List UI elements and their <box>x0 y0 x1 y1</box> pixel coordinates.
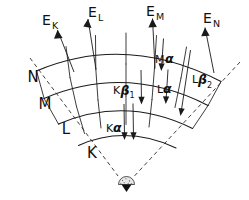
arrowhead-L-alpha <box>163 96 169 104</box>
energy-label-EM-base: E <box>146 3 155 19</box>
arrowhead-L-beta-2 <box>179 108 185 116</box>
energy-label-EN-sub: N <box>213 18 220 29</box>
energy-label-EK-sub: K <box>52 20 59 31</box>
transition-label-L-beta-2-greek: β <box>197 72 207 87</box>
nucleus-speck <box>128 183 129 184</box>
shell-label-M: M <box>39 95 52 113</box>
arrowhead-EK <box>54 30 63 39</box>
transition-label-L-beta-2: L β 2 <box>192 72 212 90</box>
arrowhead-EL <box>83 19 91 28</box>
energy-label-EL-base: E <box>88 4 97 20</box>
radial-line-7 <box>193 106 208 129</box>
energy-label-EL: E L <box>88 4 104 23</box>
transition-label-K-beta-1-sub: 1 <box>130 91 135 100</box>
transition-arrow-K-alpha <box>121 104 136 141</box>
transition-label-K-alpha: K α <box>106 120 122 135</box>
transition-label-L-beta-2-sub: 2 <box>207 81 212 90</box>
radial-line-2 <box>66 47 70 78</box>
shell-label-N: N <box>27 68 38 86</box>
energy-label-EM: E M <box>146 3 164 22</box>
energy-label-EK: E K <box>42 12 59 31</box>
transition-label-K-beta-1-greek: β <box>120 83 130 98</box>
nucleus-speck <box>129 180 130 181</box>
arrowhead-EN <box>201 28 209 37</box>
nucleus <box>119 177 135 193</box>
transition-label-L-alpha: L α <box>157 81 172 96</box>
energy-ray-EK <box>54 30 74 72</box>
nucleus-speck <box>124 182 125 183</box>
transition-shaft-K-alpha-a <box>124 104 125 137</box>
energy-labels: E K E L E M E N <box>42 3 220 31</box>
transition-shaft-K-alpha-b <box>133 104 134 138</box>
nucleus-speck <box>122 180 123 181</box>
transition-label-K-alpha-greek: α <box>113 120 122 135</box>
energy-ray-EN <box>201 28 214 74</box>
radial-line-6 <box>181 47 187 78</box>
energy-label-EL-sub: L <box>98 12 104 23</box>
nucleus-speck <box>120 183 121 184</box>
arrowhead-K-beta-1 <box>138 97 144 105</box>
radial-line-6b <box>175 78 181 108</box>
shell-label-L: L <box>62 120 71 138</box>
energy-label-EN-base: E <box>203 10 212 26</box>
radial-line-3c <box>98 100 101 128</box>
diagram-canvas: K L M N E K E L E M E N <box>0 0 249 200</box>
shell-label-K: K <box>87 144 98 162</box>
transition-shaft-L-beta-2 <box>181 50 191 113</box>
transition-label-K-beta-1: K β 1 <box>113 83 135 100</box>
transition-label-L-alpha-greek: α <box>163 81 172 96</box>
energy-label-EN: E N <box>203 10 220 29</box>
radial-line-2b <box>70 78 77 107</box>
nucleus-speck <box>125 178 126 179</box>
transition-label-M-alpha: M α <box>155 51 174 66</box>
boundary-left-dashed <box>30 58 118 176</box>
transition-labels: K α K β 1 L α M α L β 2 <box>106 51 212 135</box>
transition-label-M-alpha-greek: α <box>165 51 174 66</box>
energy-ray-EL <box>83 19 96 70</box>
energy-label-EK-base: E <box>42 12 51 28</box>
transition-label-M-alpha-prefix: M <box>155 53 165 66</box>
transition-shaft-K-beta-1 <box>141 70 142 102</box>
radial-line-5b <box>152 68 155 100</box>
transition-arrow-K-beta-1 <box>138 70 144 105</box>
energy-rays <box>54 19 214 74</box>
nucleus-speck <box>131 183 132 184</box>
energy-label-EM-sub: M <box>156 11 164 22</box>
nucleus-notch <box>122 185 132 193</box>
shell-transition-figure: K L M N E K E L E M E N <box>0 0 249 200</box>
